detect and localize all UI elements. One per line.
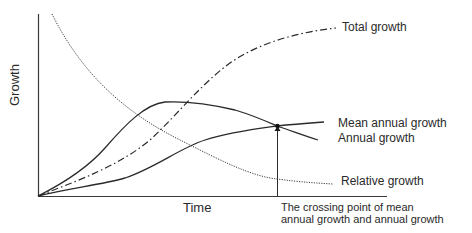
crossing-point-caption-line2: annual growth and annual growth: [281, 213, 444, 225]
annual-growth-curve: [38, 102, 318, 196]
x-axis-label: Time: [183, 200, 211, 215]
total-growth-label: Total growth: [342, 21, 407, 34]
total-growth-curve: [38, 28, 336, 196]
relative-growth-label: Relative growth: [341, 175, 424, 188]
mean-annual-growth-label: Mean annual growth: [338, 117, 447, 130]
annual-growth-label: Annual growth: [338, 132, 415, 145]
mean-annual-growth-curve: [38, 122, 324, 196]
crossing-point-dot: [275, 124, 279, 128]
crossing-point-caption-line1: The crossing point of mean: [281, 201, 414, 213]
y-axis-label: Growth: [7, 64, 22, 106]
